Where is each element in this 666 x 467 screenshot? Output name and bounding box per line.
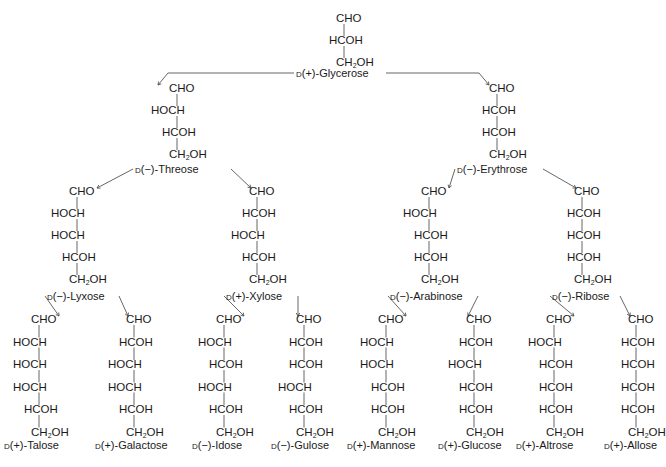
group-hoch: HOCH xyxy=(13,358,47,371)
group-ch2oh: CH2OH xyxy=(421,273,459,286)
group-ch2oh: CH2OH xyxy=(249,273,287,286)
group-hoch: HOCH xyxy=(108,381,142,394)
group-ch2oh: CH2OH xyxy=(126,426,164,439)
group-hcoh: HCOH xyxy=(119,336,153,349)
group-ch2oh: CH2OH xyxy=(574,273,612,286)
group-hcoh: HCOH xyxy=(567,229,601,242)
group-hcoh: HCOH xyxy=(162,126,196,139)
sugar-name-altrose: D(+)-Altrose xyxy=(516,439,573,453)
sugar-name-idose: D(−)-Idose xyxy=(192,439,242,453)
group-hcoh: HCOH xyxy=(242,251,276,264)
group-hcoh: HCOH xyxy=(459,381,493,394)
sugar-name-threose: D(−)-Threose xyxy=(135,163,199,177)
group-hcoh: HCOH xyxy=(289,336,323,349)
group-cho: CHO xyxy=(378,313,404,326)
group-ch2oh: CH2OH xyxy=(169,148,207,161)
group-hcoh: HCOH xyxy=(371,381,405,394)
group-ch2oh: CH2OH xyxy=(466,426,504,439)
group-hcoh: HCOH xyxy=(621,336,655,349)
group-hcoh: HCOH xyxy=(329,34,363,47)
group-hcoh: HCOH xyxy=(289,403,323,416)
group-hoch: HOCH xyxy=(448,358,482,371)
group-ch2oh: CH2OH xyxy=(378,426,416,439)
group-hcoh: HCOH xyxy=(459,403,493,416)
group-ch2oh: CH2OH xyxy=(296,426,334,439)
group-hoch: HOCH xyxy=(198,336,232,349)
group-hoch: HOCH xyxy=(278,381,312,394)
group-hcoh: HCOH xyxy=(621,403,655,416)
group-cho: CHO xyxy=(69,185,95,198)
group-cho: CHO xyxy=(296,313,322,326)
group-cho: CHO xyxy=(489,82,515,95)
group-ch2oh: CH2OH xyxy=(216,426,254,439)
group-cho: CHO xyxy=(628,313,654,326)
group-cho: CHO xyxy=(574,185,600,198)
group-hcoh: HCOH xyxy=(539,403,573,416)
group-hcoh: HCOH xyxy=(621,381,655,394)
group-hoch: HOCH xyxy=(198,381,232,394)
group-cho: CHO xyxy=(126,313,152,326)
group-hcoh: HCOH xyxy=(414,229,448,242)
sugar-name-arabinose: D(−)-Arabinose xyxy=(390,290,463,304)
group-hoch: HOCH xyxy=(528,336,562,349)
group-hoch: HOCH xyxy=(13,336,47,349)
group-hoch: HOCH xyxy=(231,229,265,242)
group-cho: CHO xyxy=(169,82,195,95)
group-hcoh: HCOH xyxy=(209,358,243,371)
group-cho: CHO xyxy=(546,313,572,326)
group-hcoh: HCOH xyxy=(539,381,573,394)
group-hcoh: HCOH xyxy=(24,403,58,416)
group-hoch: HOCH xyxy=(13,381,47,394)
group-hcoh: HCOH xyxy=(62,251,96,264)
group-hcoh: HCOH xyxy=(371,403,405,416)
sugar-name-ribose: D(−)-Ribose xyxy=(552,290,609,304)
group-ch2oh: CH2OH xyxy=(489,148,527,161)
sugar-name-talose: D(+)-Talose xyxy=(4,439,59,453)
sugar-name-erythrose: D(−)-Erythrose xyxy=(457,163,527,177)
group-cho: CHO xyxy=(336,12,362,25)
group-hoch: HOCH xyxy=(360,336,394,349)
group-cho: CHO xyxy=(31,313,57,326)
group-hcoh: HCOH xyxy=(414,251,448,264)
sugar-name-mannose: D(+)-Mannose xyxy=(347,439,415,453)
group-hcoh: HCOH xyxy=(621,358,655,371)
group-hcoh: HCOH xyxy=(242,207,276,220)
group-cho: CHO xyxy=(216,313,242,326)
group-hcoh: HCOH xyxy=(567,207,601,220)
group-hoch: HOCH xyxy=(108,358,142,371)
group-cho: CHO xyxy=(421,185,447,198)
group-hcoh: HCOH xyxy=(289,358,323,371)
sugar-name-xylose: D(+)-Xylose xyxy=(226,290,282,304)
group-cho: CHO xyxy=(466,313,492,326)
group-hoch: HOCH xyxy=(360,358,394,371)
sugar-name-lyxose: D(−)-Lyxose xyxy=(47,290,105,304)
group-hcoh: HCOH xyxy=(567,251,601,264)
sugar-name-glycerose: D(+)-Glycerose xyxy=(296,67,369,81)
group-hoch: HOCH xyxy=(403,207,437,220)
group-hcoh: HCOH xyxy=(209,403,243,416)
group-hcoh: HCOH xyxy=(119,403,153,416)
group-hcoh: HCOH xyxy=(482,104,516,117)
group-hoch: HOCH xyxy=(151,104,185,117)
group-hoch: HOCH xyxy=(51,229,85,242)
group-cho: CHO xyxy=(249,185,275,198)
group-hcoh: HCOH xyxy=(482,126,516,139)
sugar-name-galactose: D(+)-Galactose xyxy=(95,439,168,453)
sugar-name-gulose: D(−)-Gulose xyxy=(271,439,329,453)
group-ch2oh: CH2OH xyxy=(546,426,584,439)
group-hcoh: HCOH xyxy=(539,358,573,371)
sugar-name-allose: D(+)-Allose xyxy=(604,439,657,453)
group-ch2oh: CH2OH xyxy=(628,426,666,439)
sugar-name-glucose: D(+)-Glucose xyxy=(438,439,502,453)
group-hoch: HOCH xyxy=(51,207,85,220)
group-ch2oh: CH2OH xyxy=(69,273,107,286)
group-ch2oh: CH2OH xyxy=(31,426,69,439)
group-hcoh: HCOH xyxy=(459,336,493,349)
